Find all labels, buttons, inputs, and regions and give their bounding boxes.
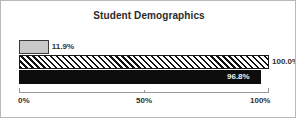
bar-row: 11.9% — [19, 40, 269, 54]
chart-title: Student Demographics — [1, 10, 296, 21]
bar-2-value-label: 100.0% — [272, 55, 296, 69]
bar-1-value-label: 11.9% — [52, 40, 74, 54]
bar-1[interactable] — [19, 40, 49, 54]
bar-3-value-label: 96.8% — [227, 70, 250, 84]
bar-row: 100.0% — [19, 55, 269, 69]
bar-2[interactable] — [19, 55, 269, 69]
x-axis-cap-right — [268, 88, 269, 93]
x-axis-tick-label: 0% — [18, 96, 30, 105]
plot-area: 11.9% 100.0% 96.8% — [19, 39, 269, 89]
chart-card: Student Demographics 11.9% 100.0% 96.8% … — [0, 0, 296, 118]
bar-3[interactable] — [19, 70, 261, 84]
x-axis-tick-label: 50% — [136, 96, 152, 105]
x-axis-tick-label: 100% — [250, 96, 270, 105]
bar-row: 96.8% — [19, 70, 269, 84]
x-axis-tick-mark — [144, 90, 145, 93]
x-axis-cap-left — [19, 88, 20, 93]
